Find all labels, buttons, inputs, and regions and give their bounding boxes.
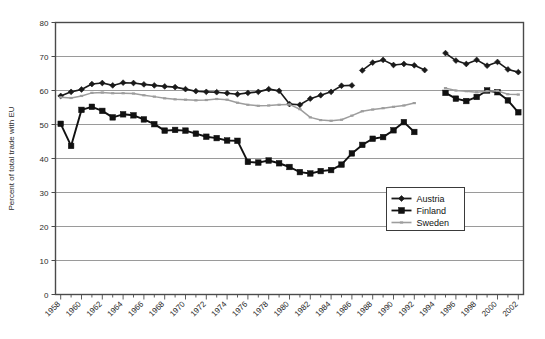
data-point-finland-1 bbox=[68, 143, 74, 149]
chart-root: 01020304050607080 1958196019621964196619… bbox=[0, 0, 545, 339]
data-point-finland-18 bbox=[245, 159, 251, 165]
chart-legend[interactable]: AustriaFinlandSweden bbox=[387, 188, 465, 231]
data-point-finland-b-2 bbox=[464, 98, 470, 104]
data-point-finland-24 bbox=[308, 171, 314, 177]
data-point-finland-16 bbox=[224, 138, 230, 144]
data-point-finland-13 bbox=[193, 131, 199, 137]
data-point-finland-17 bbox=[235, 138, 241, 144]
data-point-finland-0 bbox=[58, 121, 64, 127]
data-point-finland-33 bbox=[401, 119, 407, 125]
data-point-finland-9 bbox=[152, 121, 158, 127]
data-point-finland-26 bbox=[328, 167, 334, 173]
y-tick-label-80: 80 bbox=[40, 19, 49, 28]
y-tick-label-0: 0 bbox=[44, 291, 49, 300]
data-point-finland-21 bbox=[276, 160, 282, 166]
data-point-finland-32 bbox=[391, 127, 397, 133]
chart-background bbox=[0, 0, 545, 339]
data-point-finland-b-3 bbox=[474, 94, 480, 100]
data-point-finland-4 bbox=[100, 108, 106, 114]
trade-share-line-chart: 01020304050607080 1958196019621964196619… bbox=[0, 0, 545, 339]
y-tick-label-60: 60 bbox=[40, 87, 49, 96]
data-point-finland-27 bbox=[339, 162, 345, 168]
data-point-finland-7 bbox=[131, 113, 137, 119]
data-point-finland-2 bbox=[79, 107, 85, 113]
legend-label-sweden: Sweden bbox=[417, 218, 450, 228]
data-point-finland-34 bbox=[412, 129, 418, 135]
data-point-finland-8 bbox=[141, 117, 147, 123]
data-point-finland-29 bbox=[360, 142, 366, 148]
y-tick-label-40: 40 bbox=[40, 155, 49, 164]
legend-label-austria: Austria bbox=[417, 194, 445, 204]
data-point-finland-28 bbox=[349, 151, 355, 157]
data-point-finland-b-6 bbox=[505, 98, 511, 104]
legend-marker-finland bbox=[399, 208, 405, 214]
data-point-finland-31 bbox=[380, 134, 386, 140]
data-point-finland-11 bbox=[172, 127, 178, 133]
y-tick-label-20: 20 bbox=[40, 223, 49, 232]
y-tick-label-30: 30 bbox=[40, 189, 49, 198]
data-point-finland-23 bbox=[297, 169, 303, 175]
data-point-finland-5 bbox=[110, 115, 116, 121]
data-point-finland-3 bbox=[89, 104, 95, 110]
data-point-finland-30 bbox=[370, 136, 376, 142]
data-point-finland-22 bbox=[287, 164, 293, 170]
data-point-finland-19 bbox=[256, 160, 262, 166]
y-axis-title: Percent of total trade with EU bbox=[7, 106, 16, 210]
data-point-finland-15 bbox=[214, 135, 220, 141]
y-axis-title-text: Percent of total trade with EU bbox=[7, 106, 16, 210]
legend-label-finland: Finland bbox=[417, 206, 447, 216]
data-point-finland-12 bbox=[183, 128, 189, 134]
data-point-finland-20 bbox=[266, 158, 272, 164]
data-point-finland-25 bbox=[318, 168, 324, 174]
y-tick-label-70: 70 bbox=[40, 53, 49, 62]
y-tick-label-10: 10 bbox=[40, 257, 49, 266]
data-point-finland-b-1 bbox=[453, 96, 459, 102]
y-tick-label-50: 50 bbox=[40, 121, 49, 130]
data-point-finland-6 bbox=[120, 112, 126, 118]
data-point-finland-b-7 bbox=[516, 109, 522, 115]
data-point-finland-14 bbox=[204, 134, 210, 140]
data-point-finland-10 bbox=[162, 128, 168, 134]
data-point-finland-b-0 bbox=[443, 90, 449, 96]
